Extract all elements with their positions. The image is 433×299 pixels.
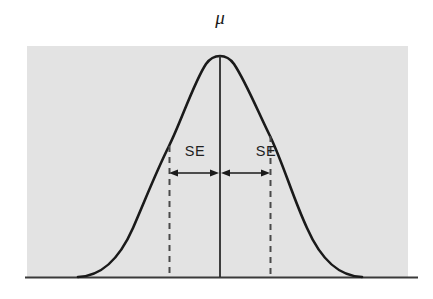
standard-error-figure: μ SE SE — [0, 0, 433, 299]
se-label-right: SE — [244, 143, 288, 160]
plot-panel-background — [27, 46, 408, 277]
se-label-left: SE — [173, 143, 217, 160]
mean-symbol-label: μ — [203, 8, 237, 28]
